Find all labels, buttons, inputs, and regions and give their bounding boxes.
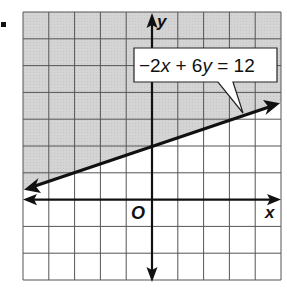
x-axis-label: x	[264, 203, 276, 222]
origin-label: O	[131, 203, 145, 223]
coordinate-plane: y x O −2x + 6y = 12	[0, 0, 287, 290]
y-axis-label: y	[156, 12, 168, 31]
equation-label: −2x + 6y = 12	[139, 55, 255, 76]
